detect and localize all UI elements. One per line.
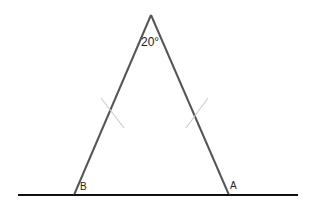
apex-angle-label: 20° xyxy=(141,35,159,49)
vertex-label-a: A xyxy=(230,180,237,191)
side-left xyxy=(74,15,151,195)
side-right xyxy=(151,15,229,195)
triangle-diagram: 20° B A xyxy=(0,0,311,204)
vertex-label-b: B xyxy=(80,181,87,192)
